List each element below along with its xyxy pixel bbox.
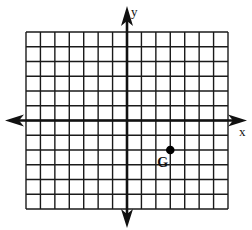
coordinate-plane: x y G — [0, 0, 252, 230]
point-marker — [166, 146, 175, 155]
point-label: G — [157, 155, 168, 170]
x-axis-label: x — [239, 124, 246, 139]
y-axis-label: y — [131, 4, 138, 19]
